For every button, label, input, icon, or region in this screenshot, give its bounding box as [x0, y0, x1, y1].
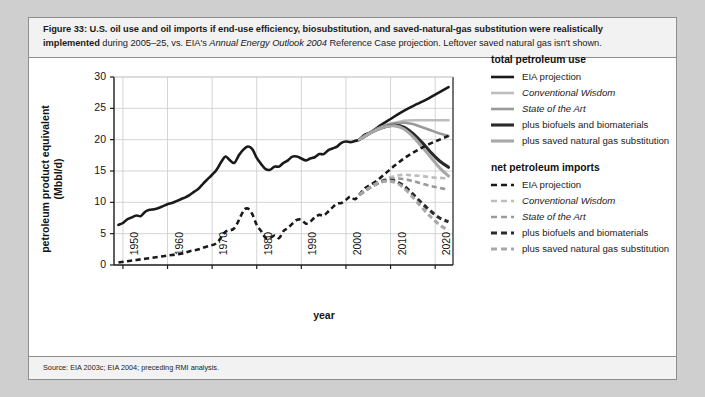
legend-list-total-use: EIA projectionConventional WisdomState o… [491, 71, 696, 147]
legend-item[interactable]: plus saved natural gas substitution [491, 243, 696, 255]
x-tick-label: 1980 [262, 232, 274, 272]
legend-swatch [491, 227, 514, 238]
x-tick-label: 1990 [306, 232, 318, 272]
legend-swatch [491, 211, 514, 222]
legend-item[interactable]: Conventional Wisdom [491, 195, 696, 207]
y-tick-label: 20 [76, 133, 106, 145]
legend-item[interactable]: plus biofuels and biomaterials [491, 227, 696, 239]
legend-heading-total-use: total petroleum use [491, 54, 696, 65]
legend-item[interactable]: EIA projection [491, 179, 696, 191]
y-axis-title: petroleum product equivalent (Mbbl/d) [39, 94, 65, 264]
y-tick-label: 25 [76, 101, 106, 113]
legend-heading-net-imports: net petroleum imports [491, 162, 696, 173]
caption-rest-2: Reference Case projection. Leftover save… [327, 38, 602, 48]
legend-spacer [491, 151, 696, 162]
x-tick-label: 2010 [396, 232, 408, 272]
legend-swatch [491, 179, 514, 190]
legend-item[interactable]: EIA projection [491, 71, 696, 83]
figure-caption-band: Figure 33: U.S. oil use and oil imports … [29, 18, 676, 58]
legend-list-net-imports: EIA projectionConventional WisdomState o… [491, 179, 696, 255]
legend-item[interactable]: State of the Art [491, 211, 696, 223]
figure-source-text: Source: EIA 2003c; EIA 2004; preceding R… [43, 363, 662, 372]
x-tick-label: 2020 [440, 232, 452, 272]
x-tick-label: 1960 [173, 232, 185, 272]
legend-item[interactable]: Conventional Wisdom [491, 87, 696, 99]
legend-item-label: plus biofuels and biomaterials [522, 227, 648, 239]
y-tick-label: 10 [76, 195, 106, 207]
legend-item[interactable]: State of the Art [491, 103, 696, 115]
legend-item-label: plus biofuels and biomaterials [522, 119, 648, 131]
legend-swatch [491, 195, 514, 206]
legend-item-label: Conventional Wisdom [522, 87, 615, 99]
y-tick-label: 0 [76, 258, 106, 270]
legend-item-label: State of the Art [522, 103, 586, 115]
figure-caption-text: Figure 33: U.S. oil use and oil imports … [43, 23, 662, 50]
x-tick-label: 1970 [217, 232, 229, 272]
legend-item-label: plus saved natural gas substitution [522, 243, 669, 255]
caption-rest-1: during 2005–25, vs. EIA's [100, 38, 209, 48]
legend-item[interactable]: plus saved natural gas substitution [491, 135, 696, 147]
x-tick-label: 2000 [351, 232, 363, 272]
y-tick-label: 15 [76, 164, 106, 176]
x-axis-title: year [174, 309, 474, 321]
figure-card: Figure 33: U.S. oil use and oil imports … [28, 17, 677, 380]
legend-item-label: plus saved natural gas substitution [522, 135, 669, 147]
legend-swatch [491, 243, 514, 254]
legend-item-label: State of the Art [522, 211, 586, 223]
y-tick-label: 5 [76, 227, 106, 239]
legend-item-label: EIA projection [522, 179, 581, 191]
chart-legend: total petroleum use EIA projectionConven… [491, 54, 696, 259]
legend-item[interactable]: plus biofuels and biomaterials [491, 119, 696, 131]
legend-item-label: EIA projection [522, 71, 581, 83]
legend-swatch [491, 119, 514, 130]
legend-swatch [491, 103, 514, 114]
legend-swatch [491, 71, 514, 82]
caption-italic-part: Annual Energy Outlook 2004 [209, 38, 327, 48]
legend-item-label: Conventional Wisdom [522, 195, 615, 207]
legend-swatch [491, 135, 514, 146]
x-tick-label: 1950 [128, 232, 140, 272]
figure-source-band: Source: EIA 2003c; EIA 2004; preceding R… [29, 356, 676, 379]
legend-swatch [491, 87, 514, 98]
y-tick-label: 30 [76, 70, 106, 82]
